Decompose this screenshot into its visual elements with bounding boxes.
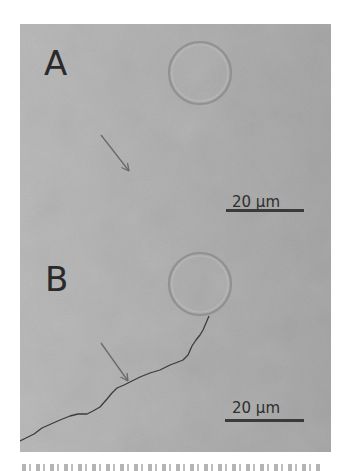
- panel-b-label: B: [45, 262, 68, 296]
- figure-caption-truncated: [0, 460, 348, 471]
- panel-b-scale-bar: [225, 419, 304, 422]
- panel-a-scale-bar: [226, 209, 304, 212]
- panel-b-scale-text: 20 μm: [232, 401, 280, 416]
- micrograph-figure: A 20 μm B 20 μm: [20, 24, 331, 452]
- micrograph-image: [20, 24, 331, 452]
- panel-a-scale-text: 20 μm: [232, 195, 280, 210]
- panel-a-label: A: [44, 46, 67, 80]
- caption-text-fragment: [22, 464, 322, 471]
- background-texture: [20, 24, 331, 452]
